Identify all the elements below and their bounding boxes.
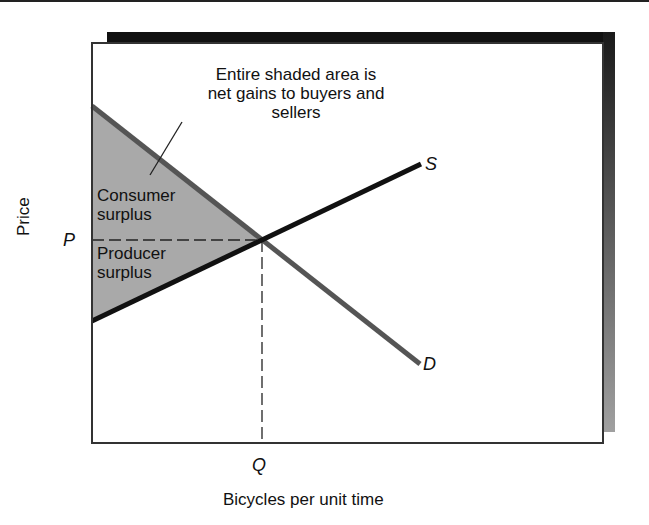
annotation-line-1: Entire shaded area is <box>196 65 396 84</box>
frame-shadow-side <box>603 32 615 432</box>
consumer-surplus-line-2: surplus <box>97 205 175 224</box>
producer-surplus-label: Producer surplus <box>97 244 166 282</box>
supply-label: S <box>425 155 437 174</box>
demand-label: D <box>423 355 436 374</box>
consumer-surplus-line-1: Consumer <box>97 186 175 205</box>
producer-surplus-line-1: Producer <box>97 244 166 263</box>
consumer-surplus-label: Consumer surplus <box>97 186 175 224</box>
annotation-line-3: sellers <box>196 103 396 122</box>
quantity-tick-label: Q <box>252 456 266 475</box>
y-axis-label: Price <box>14 197 34 236</box>
x-axis-label: Bicycles per unit time <box>223 490 384 509</box>
price-tick-label: P <box>63 231 75 250</box>
annotation-text: Entire shaded area is net gains to buyer… <box>196 65 396 122</box>
producer-surplus-line-2: surplus <box>97 263 166 282</box>
annotation-line-2: net gains to buyers and <box>196 84 396 103</box>
